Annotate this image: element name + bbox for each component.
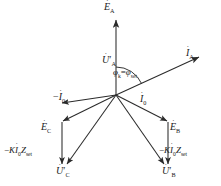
label-UB: ˙U′B (162, 166, 176, 178)
dot-accent-drop-right: ˙ (171, 144, 173, 151)
label-EA: ˙EA (104, 2, 115, 14)
impedance-subscript-right: set (181, 151, 187, 157)
dot-accent-EC: ˙ (43, 120, 46, 128)
subscript-UC: C (65, 171, 69, 178)
subscript-EC: C (47, 127, 51, 134)
label-voltage-drop-right: −K˙I0Zset (159, 146, 187, 157)
label-EB: ˙EB (170, 122, 180, 134)
label-UC: ˙U′C (56, 166, 70, 178)
subscript-UB: B (171, 171, 175, 178)
subscript-EB: B (176, 127, 180, 134)
dot-accent-I0: ˙ (141, 92, 144, 100)
dot-accent-EB: ˙ (172, 120, 175, 128)
dot-accent-neg-I0: ˙ (59, 90, 62, 98)
dot-accent-UB: ˙ (164, 164, 167, 172)
label-neg-I0: −˙I0 (53, 92, 65, 104)
label-I0: ˙I0 (140, 94, 146, 106)
impedance-subscript-left: set (26, 151, 32, 157)
phasor-vector-canvas (0, 0, 221, 186)
dot-accent-drop-left: ˙ (16, 144, 18, 151)
phasor-diagram: ˙EA ˙U′A φk=φset ˙IA ˙I0 −˙I0 ˙EC ˙EB −K… (0, 0, 221, 186)
phi-set-subscript: set (131, 73, 137, 79)
label-IA: ˙IA (186, 48, 194, 60)
subscript-I0: 0 (143, 99, 146, 106)
subscript-UA: A (111, 60, 115, 67)
dot-accent-UA: ˙ (104, 53, 107, 61)
label-EC: ˙EC (41, 122, 51, 134)
dot-accent-EA: ˙ (106, 0, 109, 8)
subscript-neg-I0: 0 (62, 97, 65, 104)
dot-accent-UC: ˙ (58, 164, 61, 172)
dot-accent-IA: ˙ (187, 46, 190, 54)
subscript-IA: A (189, 53, 193, 60)
vector-UC (67, 95, 116, 164)
label-voltage-drop-left: −K˙I0Zset (4, 146, 32, 157)
subscript-EA: A (110, 7, 114, 14)
label-angle-annotation: φk=φset (113, 68, 137, 79)
label-UA: ˙U′A (102, 55, 116, 67)
